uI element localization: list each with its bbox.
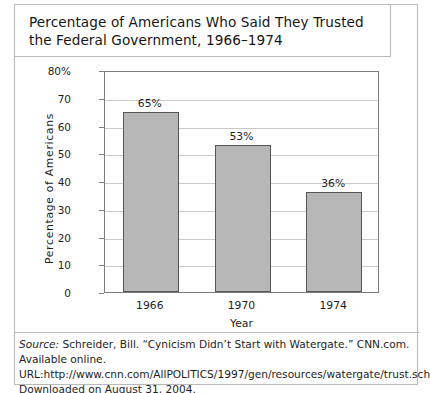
source-text: Schreider, Bill. “Cynicism Didn’t Start …	[19, 338, 430, 393]
y-axis-tick-label: 70	[11, 93, 71, 105]
y-axis-tick	[99, 182, 104, 183]
bar	[215, 145, 271, 292]
x-axis-tick-label: 1966	[110, 299, 190, 312]
y-axis-tick	[99, 293, 104, 294]
x-axis-tick-label: 1974	[293, 299, 373, 312]
bar-value-label: 65%	[115, 97, 185, 110]
y-axis-tick	[99, 210, 104, 211]
y-axis-tick-label: 30	[11, 204, 71, 216]
figure-container: Percentage of Americans Who Said They Tr…	[14, 4, 418, 385]
y-axis-tick-label: 40	[11, 176, 71, 188]
bar	[306, 192, 362, 292]
y-axis-tick	[99, 238, 104, 239]
y-axis-tick-label: 50	[11, 148, 71, 160]
y-axis-tick-label: 80%	[11, 65, 71, 77]
y-axis-tick-label: 60	[11, 121, 71, 133]
y-axis-tick	[99, 154, 104, 155]
y-axis-tick	[99, 127, 104, 128]
title-box: Percentage of Americans Who Said They Tr…	[15, 5, 391, 57]
y-axis-tick	[99, 265, 104, 266]
y-axis-tick-label: 10	[11, 259, 71, 271]
bar	[123, 112, 179, 292]
y-axis-tick	[99, 71, 104, 72]
y-axis-tick-label: 20	[11, 232, 71, 244]
source-label: Source:	[19, 338, 59, 350]
y-axis-label: Percentage of Americans	[43, 109, 56, 269]
source-note: Source: Schreider, Bill. “Cynicism Didn’…	[19, 337, 411, 393]
x-axis-label: Year	[104, 317, 379, 330]
x-axis-tick-label: 1970	[202, 299, 282, 312]
bar-value-label: 36%	[298, 177, 368, 190]
page-title: Percentage of Americans Who Said They Tr…	[29, 13, 379, 49]
source-divider	[15, 332, 419, 333]
y-axis-tick	[99, 99, 104, 100]
bar-value-label: 53%	[207, 130, 277, 143]
y-axis-tick-label: 0	[11, 287, 71, 299]
